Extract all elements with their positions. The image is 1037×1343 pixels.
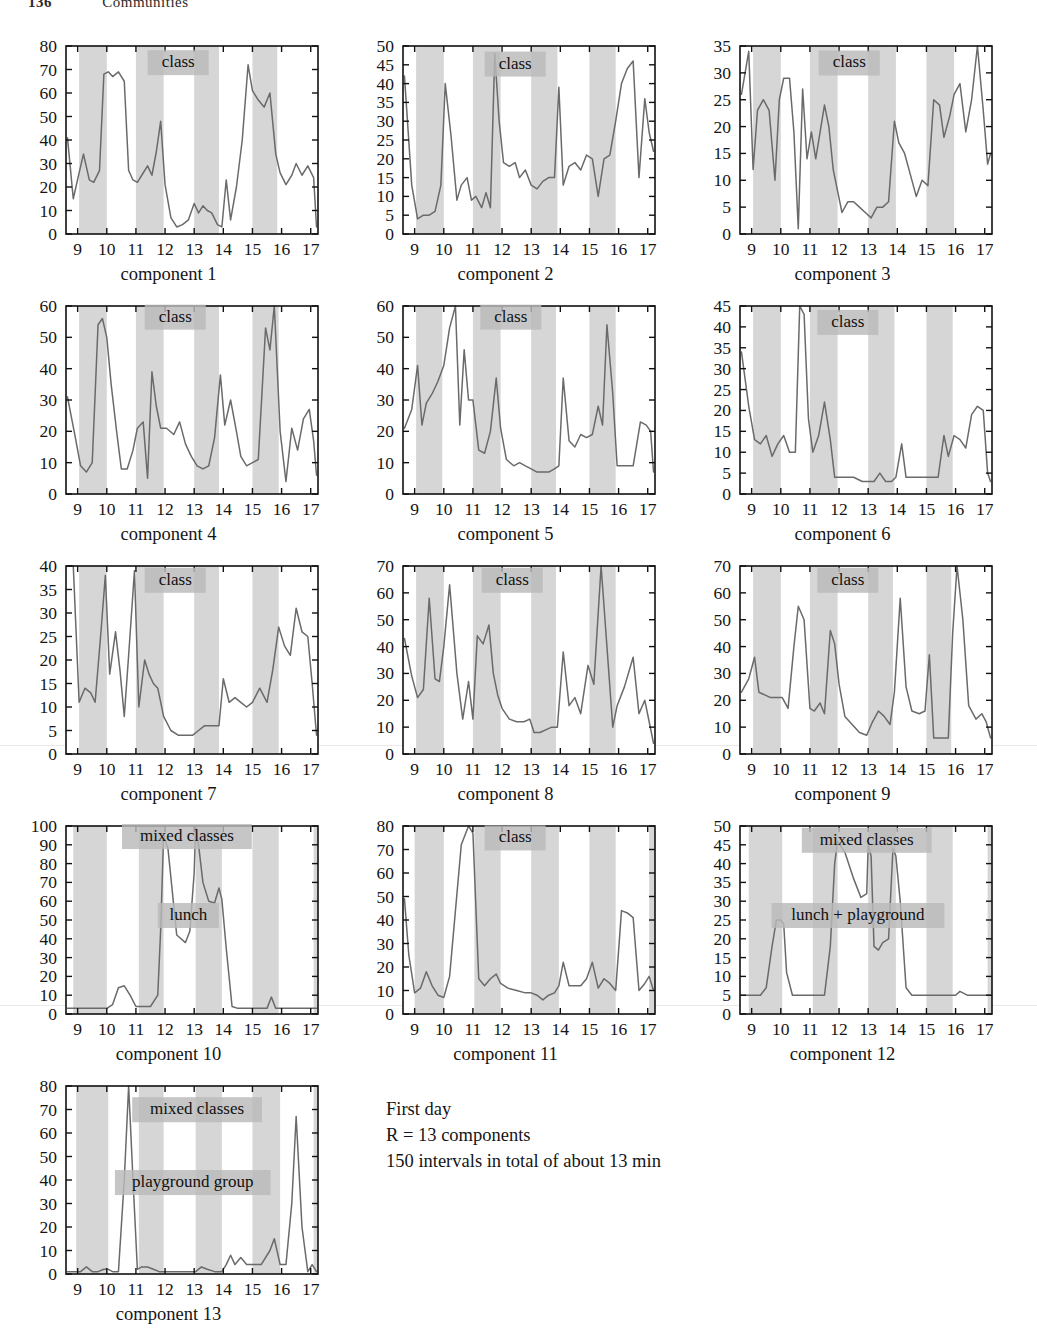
y-tick-label: 50 xyxy=(714,610,732,630)
panel-annotation: class xyxy=(494,307,527,326)
x-tick-label: 11 xyxy=(801,759,818,779)
y-tick-label: 30 xyxy=(377,111,395,131)
x-tick-label: 12 xyxy=(830,239,848,259)
x-tick-label: 10 xyxy=(98,759,116,779)
activity-band xyxy=(531,306,556,494)
activity-band xyxy=(531,826,559,1014)
y-tick-label: 60 xyxy=(40,296,58,316)
x-tick-label: 15 xyxy=(918,1019,936,1039)
y-tick-label: 25 xyxy=(714,90,732,110)
x-tick-label: 14 xyxy=(552,239,570,259)
y-tick-label: 80 xyxy=(40,36,58,56)
y-tick-label: 60 xyxy=(714,583,732,603)
x-tick-label: 17 xyxy=(302,239,320,259)
activity-band xyxy=(136,566,164,754)
y-tick-label: 25 xyxy=(714,380,732,400)
x-tick-label: 11 xyxy=(127,1279,144,1299)
x-tick-label: 13 xyxy=(185,239,203,259)
x-tick-label: 15 xyxy=(244,1019,262,1039)
activity-band xyxy=(79,306,107,494)
y-tick-label: 5 xyxy=(722,463,731,483)
panel-annotation: class xyxy=(159,570,192,589)
chart-panel-12: 0510152025303540455091011121314151617mix… xyxy=(674,798,1011,1058)
x-tick-label: 12 xyxy=(156,1019,174,1039)
y-tick-label: 10 xyxy=(40,453,58,473)
x-tick-label: 10 xyxy=(772,239,790,259)
y-tick-label: 45 xyxy=(377,55,395,75)
y-tick-label: 25 xyxy=(714,910,732,930)
x-tick-label: 9 xyxy=(410,1019,419,1039)
y-tick-label: 30 xyxy=(714,891,732,911)
panel-caption-component-11: component 11 xyxy=(337,1044,674,1065)
y-tick-label: 5 xyxy=(722,197,731,217)
panel-annotation: class xyxy=(833,52,866,71)
x-tick-label: 17 xyxy=(976,1019,994,1039)
x-tick-label: 13 xyxy=(185,1019,203,1039)
panel-row: 051015202530354091011121314151617classco… xyxy=(0,538,1037,798)
x-tick-label: 15 xyxy=(244,499,262,519)
y-tick-label: 40 xyxy=(40,556,58,576)
y-tick-label: 60 xyxy=(40,1123,58,1143)
x-tick-label: 17 xyxy=(302,1279,320,1299)
y-tick-label: 70 xyxy=(40,872,58,892)
y-tick-label: 80 xyxy=(377,816,395,836)
activity-band xyxy=(473,566,501,754)
chart-svg-component-9: 01020304050607091011121314151617class xyxy=(674,538,1011,798)
panel-caption-component-13: component 13 xyxy=(0,1304,337,1325)
panel-annotation: class xyxy=(831,312,864,331)
x-tick-label: 11 xyxy=(464,239,481,259)
chart-panel-8: 01020304050607091011121314151617classcom… xyxy=(337,538,674,798)
x-tick-label: 9 xyxy=(73,499,82,519)
y-tick-label: 30 xyxy=(714,359,732,379)
notes-block: First dayR = 13 components150 intervals … xyxy=(386,1096,826,1174)
notes-line: R = 13 components xyxy=(386,1122,826,1148)
y-tick-label: 30 xyxy=(714,63,732,83)
x-tick-label: 14 xyxy=(215,1019,233,1039)
activity-band xyxy=(416,46,444,234)
x-tick-label: 9 xyxy=(747,1019,756,1039)
panel-annotation: mixed classes xyxy=(820,830,914,849)
y-tick-label: 30 xyxy=(714,663,732,683)
x-tick-label: 13 xyxy=(522,759,540,779)
x-tick-label: 13 xyxy=(859,1019,877,1039)
chart-svg-component-10: 010203040506070809010091011121314151617m… xyxy=(0,798,337,1058)
x-tick-label: 15 xyxy=(244,239,262,259)
y-tick-label: 40 xyxy=(40,130,58,150)
activity-band xyxy=(76,1086,108,1274)
x-tick-label: 12 xyxy=(830,1019,848,1039)
y-tick-label: 40 xyxy=(377,359,395,379)
y-tick-label: 70 xyxy=(377,556,395,576)
panel-annotation: mixed classes xyxy=(150,1099,244,1118)
x-tick-label: 12 xyxy=(493,759,511,779)
y-tick-label: 5 xyxy=(385,205,394,225)
page-number: 136 xyxy=(28,0,52,10)
x-tick-label: 16 xyxy=(273,1279,291,1299)
chart-panel-1: 0102030405060708091011121314151617classc… xyxy=(0,18,337,278)
x-tick-label: 14 xyxy=(889,499,907,519)
x-tick-label: 16 xyxy=(273,499,291,519)
x-tick-label: 10 xyxy=(435,1019,453,1039)
chart-svg-component-13: 0102030405060708091011121314151617mixed … xyxy=(0,1058,337,1326)
y-tick-label: 35 xyxy=(377,92,395,112)
x-tick-label: 17 xyxy=(639,1019,657,1039)
x-tick-label: 13 xyxy=(859,759,877,779)
x-tick-label: 12 xyxy=(156,239,174,259)
x-tick-label: 11 xyxy=(464,1019,481,1039)
x-tick-label: 13 xyxy=(859,239,877,259)
y-tick-label: 50 xyxy=(40,327,58,347)
y-tick-label: 70 xyxy=(40,1100,58,1120)
x-tick-label: 9 xyxy=(410,239,419,259)
chart-panel-10: 010203040506070809010091011121314151617m… xyxy=(0,798,337,1058)
activity-band xyxy=(73,826,107,1014)
y-tick-label: 45 xyxy=(714,835,732,855)
x-tick-label: 11 xyxy=(127,759,144,779)
x-tick-label: 10 xyxy=(435,499,453,519)
y-tick-label: 0 xyxy=(48,1004,57,1024)
x-tick-label: 12 xyxy=(493,1019,511,1039)
y-tick-label: 10 xyxy=(40,201,58,221)
chart-svg-component-4: 010203040506091011121314151617class xyxy=(0,278,337,538)
x-tick-label: 15 xyxy=(918,499,936,519)
y-tick-label: 5 xyxy=(48,721,57,741)
chart-panel-11: 0102030405060708091011121314151617classc… xyxy=(337,798,674,1058)
y-tick-label: 70 xyxy=(714,556,732,576)
